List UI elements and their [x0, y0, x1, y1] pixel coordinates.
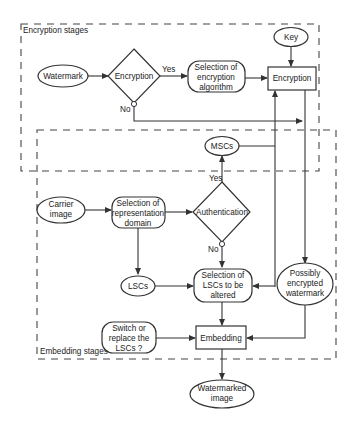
no-connector-circle	[219, 241, 224, 246]
node-mscs: MSCs	[205, 137, 239, 156]
svg-text:MSCs: MSCs	[211, 142, 233, 151]
node-lscs: LSCs	[121, 276, 155, 296]
svg-text:Carrier: Carrier	[48, 200, 73, 209]
embedding-stages-group	[37, 130, 336, 359]
edge-possibly-embedding	[247, 305, 305, 338]
svg-text:LSCs to be: LSCs to be	[203, 281, 244, 290]
svg-text:Encryption: Encryption	[115, 72, 154, 81]
svg-text:LSCs: LSCs	[128, 282, 148, 291]
embedding-stages-label: Embedding stages	[40, 347, 108, 356]
node-encryption-decision: Encryption Yes No	[108, 49, 175, 114]
encryption-stages-label: Encryption stages	[23, 26, 88, 35]
svg-text:Selection of: Selection of	[202, 271, 246, 280]
node-switch-replace: Switch or replace the LSCs ?	[102, 322, 156, 353]
node-encryption-process: Encryption	[268, 67, 316, 90]
svg-text:Possibly: Possibly	[290, 269, 321, 278]
encryption-yes-label: Yes	[162, 65, 175, 74]
svg-text:Authentication: Authentication	[196, 208, 248, 217]
svg-text:LSCs ?: LSCs ?	[116, 344, 143, 353]
svg-text:altered: altered	[210, 291, 235, 300]
svg-text:image: image	[50, 210, 73, 219]
node-authentication: Authentication Yes No	[193, 174, 250, 254]
authentication-yes-label: Yes	[209, 174, 222, 183]
encryption-stages-group	[21, 24, 319, 171]
svg-text:replace the: replace the	[109, 334, 150, 343]
authentication-no-label: No	[208, 245, 219, 254]
node-selection-algorithm: Selection of encryption algorithm	[188, 61, 245, 92]
svg-text:Switch or: Switch or	[112, 324, 146, 333]
node-embedding-process: Embedding	[196, 326, 246, 349]
svg-text:Selection of: Selection of	[117, 199, 161, 208]
node-watermark: Watermark	[38, 65, 88, 87]
flowchart: Encryption stages Embedding stages	[0, 0, 352, 428]
node-selection-domain: Selection of representation domain	[112, 197, 165, 228]
node-selection-lscs: Selection of LSCs to be altered	[194, 269, 252, 302]
svg-text:Watermark: Watermark	[43, 72, 84, 81]
svg-text:Watermarked: Watermarked	[198, 384, 247, 393]
svg-text:representation: representation	[112, 209, 165, 218]
svg-text:Encryption: Encryption	[273, 74, 312, 83]
svg-text:Embedding: Embedding	[200, 334, 242, 343]
no-connector-circle	[131, 101, 136, 106]
node-watermarked-image: Watermarked image	[190, 380, 254, 408]
svg-text:Key: Key	[284, 33, 299, 42]
node-carrier-image: Carrier image	[37, 197, 85, 223]
node-key: Key	[274, 28, 308, 47]
svg-text:Selection of: Selection of	[195, 63, 239, 72]
svg-text:encryption: encryption	[197, 73, 235, 82]
svg-text:watermark: watermark	[285, 289, 325, 298]
edge-encryption-no	[134, 106, 302, 121]
svg-text:domain: domain	[125, 219, 152, 228]
svg-text:algorithm: algorithm	[199, 83, 233, 92]
svg-text:image: image	[211, 394, 234, 403]
svg-text:encrypted: encrypted	[287, 279, 323, 288]
node-possibly-encrypted-watermark: Possibly encrypted watermark	[277, 263, 333, 305]
encryption-no-label: No	[120, 105, 131, 114]
